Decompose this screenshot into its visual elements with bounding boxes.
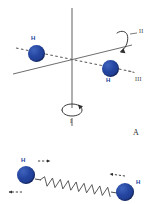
- axis-label-III: III: [135, 76, 142, 82]
- atom-hydrogen-a-left: [28, 45, 45, 62]
- scientific-figure: H H I II III A H H: [0, 0, 151, 204]
- atom-hydrogen-a-right: [102, 60, 119, 77]
- panel-label-a: A: [133, 129, 139, 137]
- atom-label-h-a-left: H: [31, 35, 35, 41]
- atom-label-h-b-right: H: [136, 179, 140, 185]
- spring-coil: [35, 176, 117, 197]
- atom-label-h-b-left: H: [21, 157, 25, 163]
- axis-II-tick: [130, 33, 137, 34]
- axis-label-I: I: [70, 118, 72, 124]
- atom-label-h-a-right: H: [106, 77, 110, 83]
- axis-label-II: II: [139, 28, 143, 34]
- atom-hydrogen-b-left: [17, 166, 35, 184]
- rotation-arrow-axis-II: [117, 31, 128, 53]
- motion-arrow-right-upper: [110, 174, 125, 176]
- axis-III-tick: [128, 71, 136, 73]
- atom-hydrogen-b-right: [116, 183, 134, 201]
